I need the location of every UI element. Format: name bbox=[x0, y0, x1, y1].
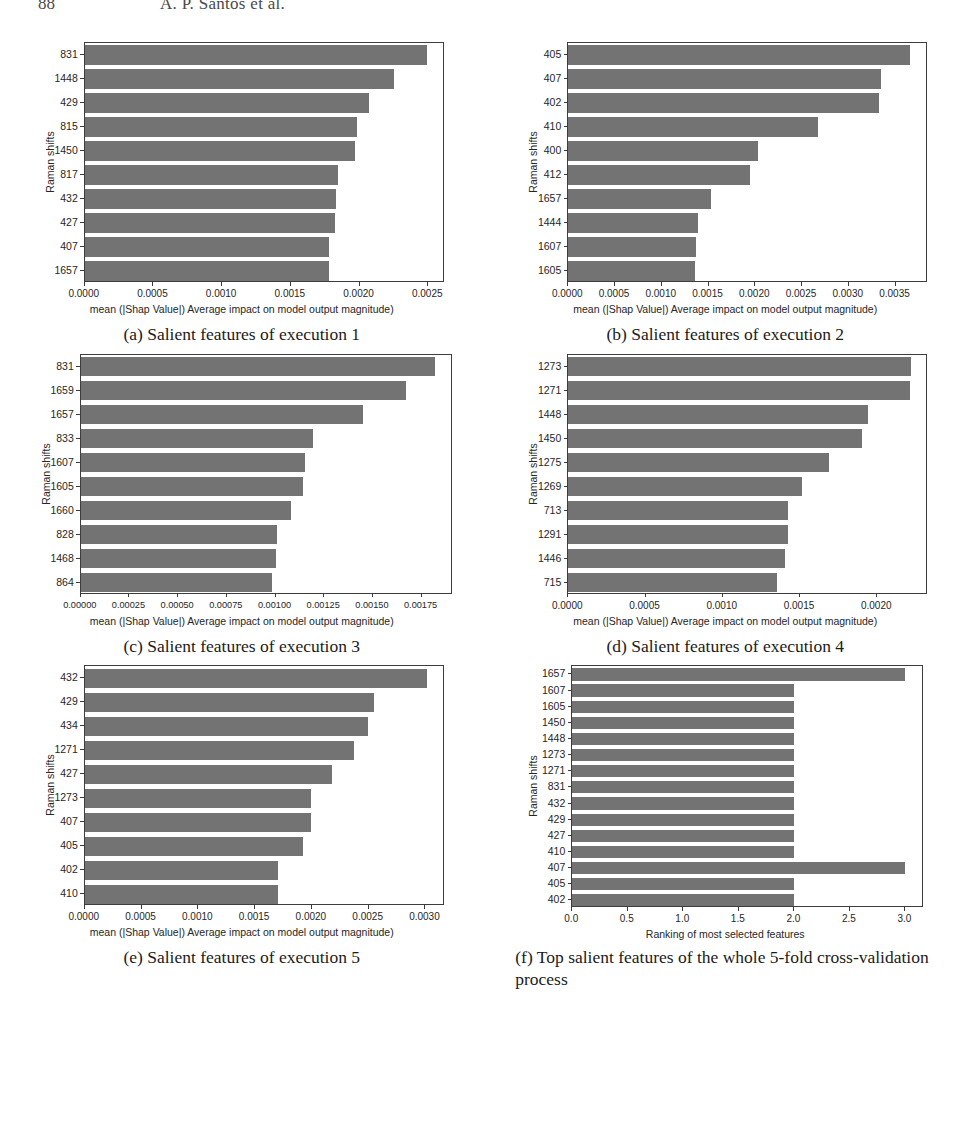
y-tick-mark bbox=[568, 706, 572, 707]
x-tick-label: 0.0020 bbox=[739, 288, 770, 299]
y-tick-label: 1291 bbox=[538, 528, 561, 540]
chart-panel-b: Raman shifts4054074024104004121657144416… bbox=[484, 34, 967, 324]
x-tick-mark bbox=[661, 282, 662, 286]
x-tick-label: 0.0015 bbox=[275, 288, 306, 299]
y-tick-mark bbox=[564, 150, 568, 151]
y-tick-mark bbox=[564, 414, 568, 415]
x-axis-label: mean (|Shap Value|) Average impact on mo… bbox=[18, 615, 466, 627]
x-tick-mark bbox=[682, 907, 683, 911]
bar bbox=[85, 93, 369, 112]
y-tick-label: 815 bbox=[60, 120, 78, 132]
y-tick-mark bbox=[76, 438, 80, 439]
bar bbox=[81, 573, 272, 592]
running-head-authors: A. P. Santos et al. bbox=[160, 0, 285, 14]
y-tick-mark bbox=[80, 78, 84, 79]
y-tick-mark bbox=[80, 246, 84, 247]
y-tick-mark bbox=[568, 754, 572, 755]
x-tick-mark bbox=[567, 282, 568, 286]
bar bbox=[81, 549, 276, 568]
chart-panel-a: Raman shifts8311448429815145081743242740… bbox=[0, 34, 484, 324]
y-tick-mark bbox=[568, 851, 572, 852]
y-tick-mark bbox=[564, 438, 568, 439]
x-tick-mark bbox=[645, 594, 646, 598]
x-tick-mark bbox=[571, 907, 572, 911]
y-tick-mark bbox=[568, 899, 572, 900]
y-tick-mark bbox=[564, 510, 568, 511]
bar bbox=[81, 429, 313, 448]
y-tick-mark bbox=[76, 414, 80, 415]
y-tick-label: 405 bbox=[60, 839, 78, 851]
x-tick-mark bbox=[876, 594, 877, 598]
plot-frame-f bbox=[571, 665, 923, 907]
y-tick-label: 412 bbox=[544, 168, 562, 180]
y-axis-label: Raman shifts bbox=[40, 443, 52, 504]
bar bbox=[572, 717, 794, 729]
y-tick-mark bbox=[80, 797, 84, 798]
x-tick-label: 0.0025 bbox=[412, 288, 443, 299]
x-tick-mark bbox=[152, 282, 153, 286]
caption-wrap-a: (a) Salient features of execution 1 bbox=[0, 324, 484, 346]
x-tick-label: 0.0020 bbox=[861, 600, 892, 611]
x-tick-mark bbox=[290, 282, 291, 286]
bar bbox=[568, 501, 787, 520]
y-tick-mark bbox=[568, 867, 572, 868]
caption-wrap-b: (b) Salient features of execution 2 bbox=[484, 324, 967, 346]
y-tick-label: 429 bbox=[548, 813, 566, 825]
y-tick-mark bbox=[80, 198, 84, 199]
plot-frame-e bbox=[84, 665, 444, 905]
bar bbox=[572, 684, 794, 696]
x-tick-label: 0.0015 bbox=[692, 288, 723, 299]
x-tick-label: 0.0000 bbox=[552, 600, 583, 611]
y-tick-label: 1271 bbox=[54, 743, 77, 755]
x-tick-label: 1.5 bbox=[731, 913, 745, 924]
x-axis-label: mean (|Shap Value|) Average impact on mo… bbox=[505, 615, 945, 627]
bar bbox=[572, 814, 794, 826]
subfigure-caption-d: (d) Salient features of execution 4 bbox=[596, 636, 854, 658]
y-tick-mark bbox=[80, 821, 84, 822]
y-tick-label: 410 bbox=[548, 845, 566, 857]
bar bbox=[85, 141, 356, 160]
bar bbox=[81, 381, 406, 400]
x-tick-mark bbox=[801, 282, 802, 286]
x-tick-label: 0.0035 bbox=[879, 288, 910, 299]
bar bbox=[568, 237, 696, 256]
bar bbox=[568, 477, 801, 496]
x-tick-label: 0.0030 bbox=[409, 911, 440, 922]
bar bbox=[572, 701, 794, 713]
bar bbox=[572, 668, 905, 680]
x-tick-label: 0.00050 bbox=[161, 600, 194, 610]
x-tick-mark bbox=[254, 905, 255, 909]
bar bbox=[85, 237, 330, 256]
y-tick-mark bbox=[80, 725, 84, 726]
y-tick-mark bbox=[76, 390, 80, 391]
x-tick-mark bbox=[197, 905, 198, 909]
y-tick-label: 1607 bbox=[542, 684, 565, 696]
y-tick-label: 427 bbox=[60, 216, 78, 228]
bar bbox=[81, 405, 363, 424]
bar bbox=[568, 357, 911, 376]
bar bbox=[85, 117, 357, 136]
y-tick-mark bbox=[76, 486, 80, 487]
x-tick-label: 0.0010 bbox=[206, 288, 237, 299]
x-tick-label: 0.5 bbox=[620, 913, 634, 924]
figure-row-2: Raman shifts8311659165783316071605166082… bbox=[0, 346, 967, 658]
x-tick-label: 0.00075 bbox=[209, 600, 242, 610]
y-tick-label: 402 bbox=[60, 863, 78, 875]
bar bbox=[572, 878, 794, 890]
y-tick-mark bbox=[80, 150, 84, 151]
bar bbox=[85, 45, 427, 64]
chart-panel-d: Raman shifts1273127114481450127512697131… bbox=[484, 346, 967, 636]
y-tick-mark bbox=[80, 222, 84, 223]
x-tick-label: 0.0000 bbox=[552, 288, 583, 299]
x-tick-label: 0.0 bbox=[564, 913, 578, 924]
figure-grid: Raman shifts8311448429815145081743242740… bbox=[0, 34, 967, 991]
figure-row-3: Raman shifts4324294341271427127340740540… bbox=[0, 657, 967, 990]
y-tick-label: 828 bbox=[56, 528, 74, 540]
y-tick-label: 407 bbox=[60, 815, 78, 827]
y-tick-mark bbox=[80, 174, 84, 175]
y-tick-label: 432 bbox=[548, 797, 566, 809]
plot-area-a: Raman shifts8311448429815145081743242740… bbox=[22, 34, 462, 324]
subfigure-d: Raman shifts1273127114481450127512697131… bbox=[484, 346, 967, 658]
bar bbox=[81, 501, 291, 520]
y-tick-mark bbox=[76, 582, 80, 583]
